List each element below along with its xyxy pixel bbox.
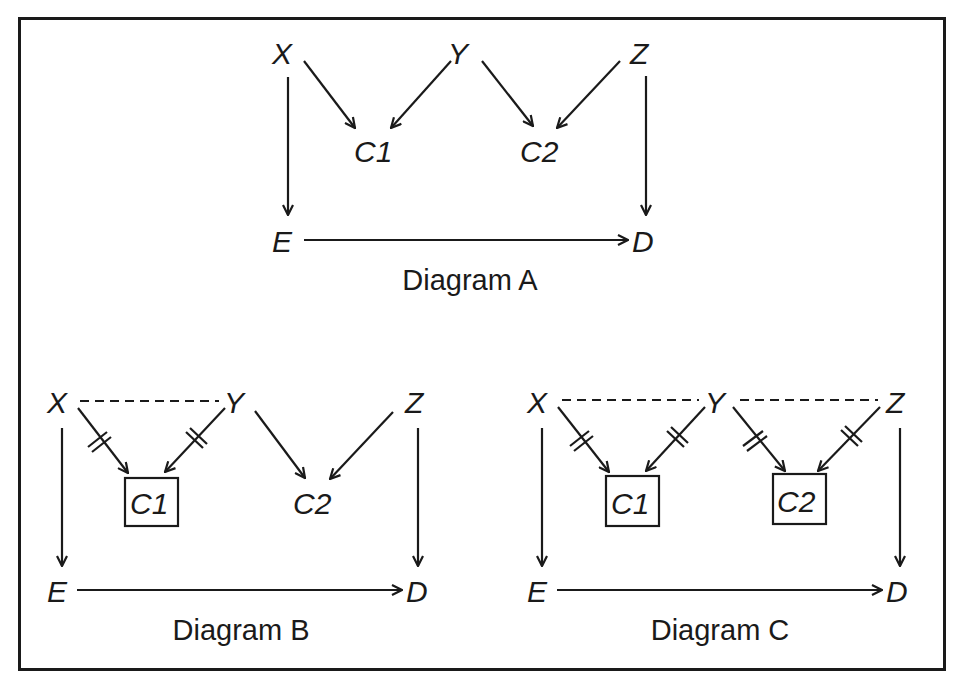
diagram-c: X Y Z C1 C2 E D D bbox=[526, 386, 908, 646]
node-c1: C1 bbox=[354, 135, 392, 168]
node-x: X bbox=[271, 37, 293, 70]
node-c2: C2 bbox=[520, 135, 559, 168]
caption-diagram-a: Diagram A bbox=[402, 264, 538, 296]
caption-diagram-b: Diagram B bbox=[173, 614, 310, 646]
node-z: Z bbox=[629, 37, 650, 70]
diagram-b: X Y Z C1 C2 E D Diagram B bbox=[46, 386, 428, 646]
edge-z-c2 bbox=[557, 61, 620, 128]
edge-y-c1 bbox=[391, 61, 451, 128]
edge-y-c2 bbox=[482, 61, 533, 126]
edge-y-c2 bbox=[733, 407, 785, 471]
node-c2: C2 bbox=[777, 485, 816, 518]
node-y: Y bbox=[705, 386, 727, 419]
edge-y-c2 bbox=[255, 411, 305, 478]
caption-diagram-c: Diagram C bbox=[651, 614, 790, 646]
node-d: D bbox=[406, 575, 428, 608]
node-x: X bbox=[526, 386, 548, 419]
node-c2: C2 bbox=[293, 487, 332, 520]
edge-x-c1 bbox=[78, 408, 128, 473]
node-d: D bbox=[632, 225, 654, 258]
diagram-a: X Y Z C1 C2 E D Diagram A bbox=[271, 37, 654, 296]
node-y: Y bbox=[224, 386, 246, 419]
edge-z-c2 bbox=[330, 412, 393, 479]
causal-diagrams-figure: X Y Z C1 C2 E D Diagram A X Y Z C1 C2 E … bbox=[0, 0, 956, 681]
node-y: Y bbox=[448, 37, 470, 70]
edge-x-c1 bbox=[304, 61, 355, 128]
node-d: D bbox=[886, 575, 908, 608]
edge-x-c1 bbox=[558, 407, 609, 472]
node-z: Z bbox=[404, 386, 425, 419]
node-e: E bbox=[527, 575, 548, 608]
node-x: X bbox=[46, 386, 68, 419]
node-z: Z bbox=[885, 386, 906, 419]
node-e: E bbox=[47, 575, 68, 608]
node-c1: C1 bbox=[611, 487, 649, 520]
node-c1: C1 bbox=[130, 487, 168, 520]
node-e: E bbox=[272, 225, 293, 258]
